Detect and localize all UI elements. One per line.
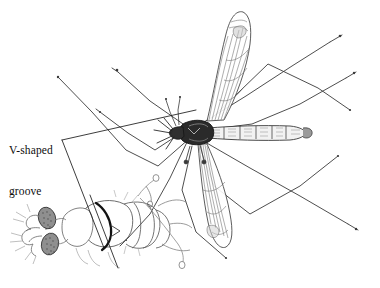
crane-fly-illustration (0, 0, 380, 288)
v-shaped-groove-label-line2: groove (9, 185, 53, 199)
figure-root: V-shaped groove (0, 0, 380, 288)
v-shaped-groove-label: V-shaped groove (9, 117, 53, 225)
abdomen (208, 126, 312, 141)
v-shaped-groove-label-line1: V-shaped (9, 144, 53, 158)
thorax (179, 120, 214, 145)
